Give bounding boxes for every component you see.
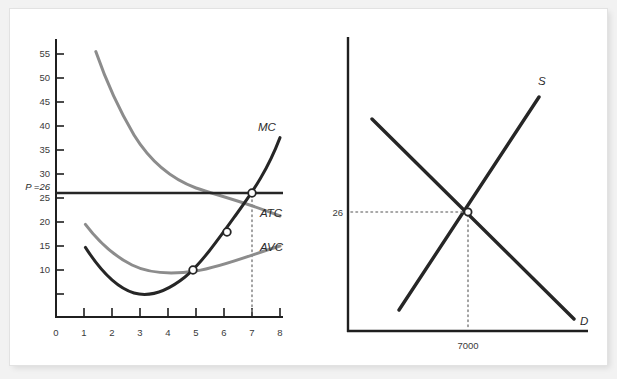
curve-supply <box>399 97 539 310</box>
figure-panel-frame: 10 15 20 25 30 35 40 45 50 55 P =26 <box>10 9 607 365</box>
y-tick-label-25: 25 <box>39 192 50 203</box>
curve-demand <box>372 119 574 319</box>
equilibrium-price-label: 26 <box>332 207 343 218</box>
right-panel-market-equilibrium: 26 7000 S D <box>332 37 588 351</box>
curve-label-avc: AVC <box>259 241 284 253</box>
y-tick-label-20: 20 <box>39 216 50 227</box>
left-panel-firm-cost-curves: 10 15 20 25 30 35 40 45 50 55 P =26 <box>25 39 283 338</box>
y-tick-label-40: 40 <box>39 120 50 131</box>
y-tick-label-55: 55 <box>39 48 50 59</box>
curve-label-mc: MC <box>258 121 277 133</box>
left-x-ticks <box>84 308 280 317</box>
economics-figure: 10 15 20 25 30 35 40 45 50 55 P =26 <box>10 9 607 365</box>
x-tick-label-7: 7 <box>249 327 254 338</box>
market-equilibrium-point <box>464 208 471 215</box>
equilibrium-quantity-label: 7000 <box>457 340 478 351</box>
x-tick-label-5: 5 <box>193 327 198 338</box>
x-tick-label-1: 1 <box>81 327 86 338</box>
y-tick-label-30: 30 <box>39 168 50 179</box>
y-tick-label-50: 50 <box>39 72 50 83</box>
x-tick-label-3: 3 <box>137 327 142 338</box>
x-tick-label-6: 6 <box>221 327 226 338</box>
x-tick-label-4: 4 <box>165 327 170 338</box>
y-tick-label-15: 15 <box>39 240 50 251</box>
curve-label-atc: ATC <box>259 207 283 219</box>
curve-avc <box>85 224 280 273</box>
y-tick-label-45: 45 <box>39 96 50 107</box>
x-tick-label-2: 2 <box>109 327 114 338</box>
x-tick-label-8: 8 <box>277 327 282 338</box>
mc-atc-breakeven-point <box>223 228 231 236</box>
curve-label-demand: D <box>580 315 588 327</box>
left-y-ticks <box>56 54 64 294</box>
x-tick-label-0: 0 <box>53 327 58 338</box>
figure-root: 10 15 20 25 30 35 40 45 50 55 P =26 <box>0 0 617 379</box>
price-line-label: P =26 <box>25 181 50 192</box>
curve-mc <box>85 138 280 295</box>
mc-avc-shutdown-point <box>189 266 197 274</box>
y-tick-label-35: 35 <box>39 144 50 155</box>
curve-label-supply: S <box>538 75 546 87</box>
y-tick-label-10: 10 <box>39 264 50 275</box>
mc-price-profit-max-point <box>248 189 256 197</box>
